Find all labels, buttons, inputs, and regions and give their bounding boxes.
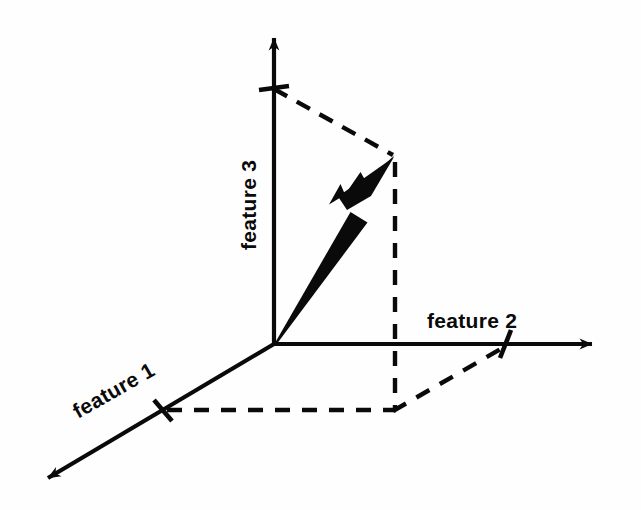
projection-line-feature-3 — [274, 89, 393, 155]
projection-line-feature-2 — [393, 347, 504, 411]
axis-feature-2[interactable] — [274, 330, 592, 358]
axis-label-feature-2: feature 2 — [427, 309, 517, 332]
figure-canvas: feature 2 feature 3 feature 1 — [0, 0, 641, 510]
feature-vector-shaft — [274, 212, 368, 346]
feature-vector[interactable] — [274, 155, 395, 346]
axis-label-feature-3: feature 3 — [237, 160, 260, 250]
feature-space-diagram: feature 2 feature 3 feature 1 — [0, 0, 641, 510]
axis-group — [48, 38, 592, 478]
axis-label-feature-1: feature 1 — [69, 358, 159, 423]
axis-feature-3[interactable] — [259, 38, 289, 344]
feature-vector-head-fill — [338, 157, 394, 210]
